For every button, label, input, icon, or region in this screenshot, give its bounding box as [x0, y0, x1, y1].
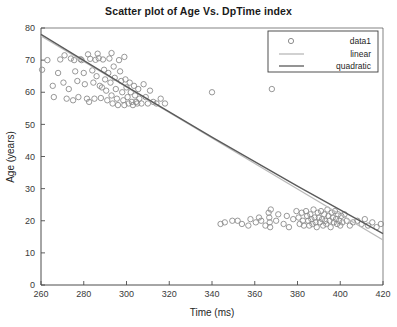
x-tick-label: 400	[333, 289, 348, 299]
x-tick-label: 420	[375, 289, 390, 299]
y-tick-label: 50	[25, 120, 35, 130]
x-tick-label: 280	[76, 289, 91, 299]
figure-container: Scatter plot of Age Vs. DpTime index 010…	[0, 0, 397, 327]
legend-box[interactable]: data1 linear quadratic	[268, 31, 378, 72]
y-tick-label: 60	[25, 87, 35, 97]
legend-label-linear: linear	[350, 49, 371, 59]
scatter-plot-canvas: 01020304050607080 2602803003203403603804…	[0, 0, 397, 327]
y-tick-label: 10	[25, 248, 35, 258]
x-tick-label: 380	[290, 289, 305, 299]
y-tick-label: 80	[25, 23, 35, 33]
x-tick-label: 260	[33, 289, 48, 299]
legend-label-quadratic: quadratic	[336, 61, 372, 71]
y-axis-title: Age (years)	[5, 131, 16, 183]
legend-label-data1: data1	[350, 36, 372, 46]
y-tick-label: 70	[25, 55, 35, 65]
x-tick-label: 320	[162, 289, 177, 299]
x-axis-title: Time (ms)	[190, 307, 235, 318]
y-tick-label: 20	[25, 216, 35, 226]
x-tick-label: 300	[119, 289, 134, 299]
x-tick-label: 340	[204, 289, 219, 299]
x-tick-label: 360	[247, 289, 262, 299]
y-tick-label: 30	[25, 184, 35, 194]
y-tick-label: 40	[25, 152, 35, 162]
